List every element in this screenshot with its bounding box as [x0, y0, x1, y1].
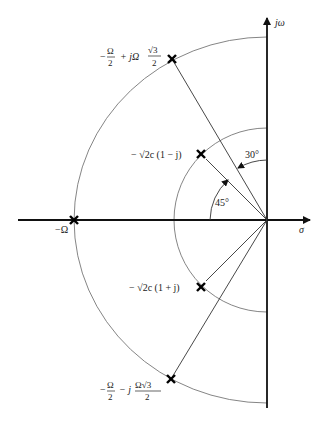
pole-x-icon: [70, 55, 205, 383]
pole-real-label: −Ω: [55, 224, 68, 235]
imaginary-axis-label: jω: [273, 17, 285, 28]
svg-text:− j: − j: [119, 384, 131, 395]
svg-text:Ω: Ω: [107, 46, 114, 56]
s-plane-diagram: jω σ 30° 45° − Ω 2 + jΩ √3 2 −Ω − Ω 2 − …: [0, 0, 333, 421]
ray-bottom-inner: [206, 220, 267, 281]
pole-bottom-inner-label: − √2c (1 + j): [129, 282, 180, 294]
svg-text:2: 2: [108, 58, 113, 68]
pole-top-outer-label: − Ω 2 + jΩ √3 2: [100, 45, 161, 68]
angle-30-arc: [238, 160, 267, 168]
ray-top-outer: [172, 59, 267, 220]
svg-text:−: −: [100, 51, 106, 62]
pole-top-inner-label: − √2c (1 − j): [131, 149, 182, 161]
angle-45-label: 45°: [215, 197, 229, 208]
svg-text:Ω: Ω: [107, 380, 114, 390]
real-axis-label: σ: [299, 224, 305, 235]
svg-text:√3: √3: [148, 45, 158, 55]
svg-text:Ω√3: Ω√3: [135, 380, 152, 390]
svg-text:2: 2: [108, 392, 113, 402]
svg-text:2: 2: [145, 392, 150, 402]
ray-bottom-outer: [171, 220, 267, 379]
svg-text:−: −: [100, 384, 106, 395]
svg-text:2: 2: [152, 58, 157, 68]
pole-bottom-outer-label: − Ω 2 − j Ω√3 2: [100, 380, 161, 402]
svg-text:+ jΩ: + jΩ: [120, 51, 139, 62]
angle-30-label: 30°: [245, 149, 259, 160]
